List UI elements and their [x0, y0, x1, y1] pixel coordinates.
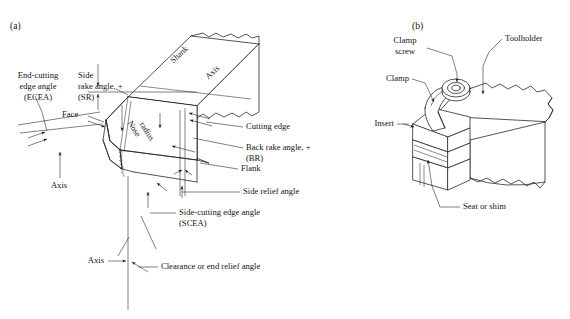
leader-clamp-screw [427, 48, 457, 74]
cutting-tool-geometry-figure: (a) [0, 0, 570, 319]
clearance-label: Clearance or end relief angle [161, 261, 260, 271]
flank-label: Flank [241, 163, 261, 173]
clamp-label: Clamp [386, 73, 409, 83]
clamp-screw-label-line1: Clamp [394, 35, 417, 45]
leader-clamp [412, 79, 425, 83]
clamp-screw-label-line2: screw [395, 46, 416, 56]
cutting-edge-label: Cutting edge [246, 121, 290, 131]
scea-label-line2: (SCEA) [179, 218, 207, 228]
axis-left-label: Axis [51, 180, 68, 190]
back-rake-label-line1: Back rake angle, + [246, 142, 311, 152]
side-relief-label: Side relief angle [243, 186, 299, 196]
ecea-label-line2: edge angle [20, 81, 57, 91]
ecea-label-line3: (ECEA) [24, 92, 52, 102]
panel-b-label: (b) [412, 20, 423, 32]
side-rake-label-line2: rake angle, + [78, 81, 123, 91]
toolholder-label: Toolholder [505, 33, 543, 43]
clamp-screw-head [442, 79, 470, 101]
leader-flank [200, 163, 238, 169]
back-rake-label-line2: (BR) [246, 153, 263, 163]
insert-label: Insert [374, 118, 394, 128]
axis-bottom-label: Axis [88, 255, 105, 265]
leader-face [88, 116, 104, 122]
seat-shim-label: Seat or shim [463, 201, 506, 211]
ecea-label-line1: End-cutting [18, 70, 59, 80]
leader-cutting-edge [206, 122, 243, 127]
panel-a: (a) [10, 20, 311, 310]
panel-b: (b) [374, 20, 553, 211]
side-rake-label-line1: Side [78, 70, 93, 80]
panel-a-label: (a) [10, 20, 21, 32]
leader-back-rake [193, 138, 243, 148]
side-rake-label-line3: (SR) [78, 92, 94, 102]
scea-label-line1: Side-cutting edge angle [179, 207, 260, 217]
face-label: Face [62, 109, 78, 119]
leader-toolholder [483, 39, 502, 66]
